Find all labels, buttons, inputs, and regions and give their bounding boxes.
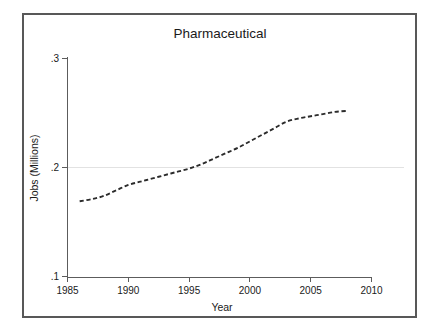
screenshot-root: Pharmaceutical .3 .2 .1 1985 1990 1995 2… <box>0 0 439 333</box>
chart-canvas: Pharmaceutical .3 .2 .1 1985 1990 1995 2… <box>0 0 439 333</box>
x-tick-label-1990: 1990 <box>117 285 140 296</box>
y-axis-title: Jobs (Millions) <box>28 134 40 201</box>
data-series-line <box>80 111 348 201</box>
y-tick-label-0.3: .3 <box>51 53 60 64</box>
x-tick-label-2005: 2005 <box>300 285 323 296</box>
y-tick-label-0.2: .2 <box>51 162 60 173</box>
y-tick-label-0.1: .1 <box>51 271 60 282</box>
page-title: Pharmaceutical <box>173 26 266 41</box>
x-tick-label-1995: 1995 <box>178 285 201 296</box>
x-tick-label-2010: 2010 <box>360 285 383 296</box>
x-tick-label-2000: 2000 <box>239 285 262 296</box>
x-tick-label-1985: 1985 <box>56 285 79 296</box>
x-axis-title: Year <box>211 301 233 313</box>
